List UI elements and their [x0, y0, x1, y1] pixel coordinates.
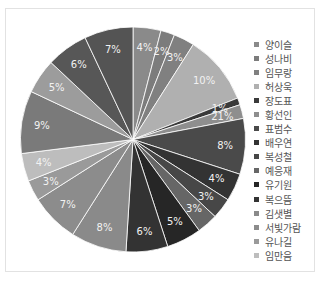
legend-label: 유나길	[265, 234, 292, 249]
legend-label: 복성철	[265, 149, 292, 164]
legend-label: 복으뜸	[265, 192, 292, 207]
slice-percent-label: 7%	[105, 44, 121, 55]
legend-label: 장도표	[265, 93, 292, 108]
slice-percent-label: 3%	[167, 52, 183, 63]
slice-percent-label: 6%	[71, 59, 87, 70]
legend-item: 황선인	[254, 107, 301, 121]
slice-percent-label: 8%	[217, 140, 233, 151]
legend-swatch-icon	[254, 112, 259, 117]
slice-percent-label: 6%	[137, 226, 153, 237]
legend-item: 배우연	[254, 136, 301, 150]
legend-swatch-icon	[254, 98, 259, 103]
slice-percent-label: 4%	[36, 157, 52, 168]
legend-label: 황선인	[265, 107, 292, 122]
legend-label: 임만음	[265, 248, 292, 263]
legend-swatch-icon	[254, 225, 259, 230]
legend-label: 양이슬	[265, 37, 292, 52]
slice-percent-label: 5%	[49, 82, 65, 93]
legend-item: 임만음	[254, 248, 301, 262]
slice-percent-label: 9%	[34, 120, 50, 131]
legend-swatch-icon	[254, 126, 259, 131]
legend-swatch-icon	[254, 140, 259, 145]
legend-item: 성나비	[254, 51, 301, 65]
legend-label: 예응재	[265, 163, 292, 178]
slice-percent-label: 5%	[167, 216, 183, 227]
legend-swatch-icon	[254, 239, 259, 244]
legend-label: 유기원	[265, 177, 292, 192]
legend-item: 임무랑	[254, 65, 301, 79]
legend-label: 성나비	[265, 51, 292, 66]
legend-label: 배우연	[265, 135, 292, 150]
legend-label: 허상욱	[265, 79, 292, 94]
slice-percent-label: 10%	[193, 75, 215, 86]
legend-swatch-icon	[254, 70, 259, 75]
slice-percent-label: 21%	[211, 111, 233, 122]
legend-item: 복으뜸	[254, 192, 301, 206]
legend-item: 장도표	[254, 93, 301, 107]
legend-label: 서빛가람	[265, 220, 301, 235]
legend-item: 서빛가람	[254, 220, 301, 234]
slice-percent-label: 8%	[97, 222, 113, 233]
slice-percent-label: 3%	[43, 176, 59, 187]
legend-item: 예응재	[254, 164, 301, 178]
legend-item: 표범수	[254, 122, 301, 136]
legend-label: 김샛별	[265, 206, 292, 221]
slice-percent-label: 3%	[186, 203, 202, 214]
slice-percent-label: 4%	[209, 173, 225, 184]
legend-item: 복성철	[254, 150, 301, 164]
legend-label: 표범수	[265, 121, 292, 136]
legend-swatch-icon	[254, 197, 259, 202]
legend-swatch-icon	[254, 253, 259, 258]
legend-swatch-icon	[254, 182, 259, 187]
legend-swatch-icon	[254, 211, 259, 216]
legend-item: 허상욱	[254, 79, 301, 93]
legend-swatch-icon	[254, 168, 259, 173]
legend-item: 유나길	[254, 234, 301, 248]
legend-item: 유기원	[254, 178, 301, 192]
legend-item: 김샛별	[254, 206, 301, 220]
slice-percent-label: 3%	[198, 191, 214, 202]
slice-percent-label: 4%	[137, 42, 153, 53]
legend-swatch-icon	[254, 84, 259, 89]
legend-swatch-icon	[254, 42, 259, 47]
legend-swatch-icon	[254, 56, 259, 61]
legend-swatch-icon	[254, 154, 259, 159]
legend-label: 임무랑	[265, 65, 292, 80]
slice-percent-label: 7%	[60, 199, 76, 210]
legend-item: 양이슬	[254, 37, 301, 51]
chart-legend: 양이슬성나비임무랑허상욱장도표황선인표범수배우연복성철예응재유기원복으뜸김샛별서…	[254, 37, 301, 263]
